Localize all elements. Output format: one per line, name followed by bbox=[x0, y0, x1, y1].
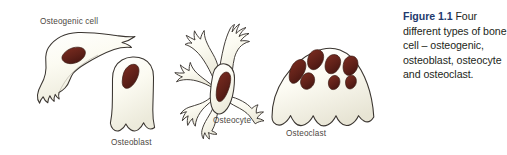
osteoclast-cell-graphic bbox=[272, 48, 374, 126]
figure-caption-number: Figure 1.1 bbox=[403, 10, 453, 22]
osteoblast-cell-graphic bbox=[110, 57, 154, 131]
osteoblast-cell-label: Osteoblast bbox=[111, 139, 152, 147]
bone-cell-illustration: Osteogenic cell Osteoblast Osteocyte Ost… bbox=[0, 0, 395, 155]
osteoclast-cell-label: Osteoclast bbox=[286, 130, 326, 138]
osteogenic-cell-label: Osteogenic cell bbox=[40, 18, 98, 26]
osteocyte-cell-label: Osteocyte bbox=[213, 117, 251, 125]
figure-caption: Figure 1.1 Four different types of bone … bbox=[403, 9, 507, 82]
figure-page: Osteogenic cell Osteoblast Osteocyte Ost… bbox=[0, 0, 507, 155]
